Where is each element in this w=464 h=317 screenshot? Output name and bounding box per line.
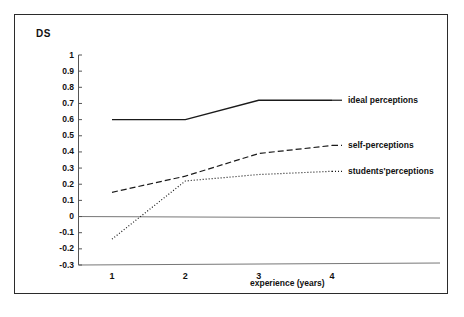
legend-label-1: self-perceptions [348,140,414,150]
y-tick-label: 0.1 [40,196,74,204]
x-axis-line [79,263,441,265]
x-axis-label: experience (years) [250,278,325,288]
y-tick-label: -0.1 [40,228,74,236]
series-line-1 [112,145,332,192]
series-group [112,100,332,239]
y-tick-label: -0.3 [40,261,74,269]
series-line-0 [112,100,332,119]
y-tick-label: 0.9 [40,67,74,75]
zero-reference-line [79,217,441,219]
y-tick-label: 0 [40,212,74,220]
legend-sample-lines [332,100,342,171]
y-tick-label: 0.4 [40,147,74,155]
y-tick-label: 0.3 [40,164,74,172]
y-tick-label: 0.7 [40,99,74,107]
legend-label-0: ideal perceptions [348,95,418,105]
series-line-2 [112,171,332,239]
y-tick-label: 0.5 [40,131,74,139]
y-tick-label: 0.8 [40,83,74,91]
legend-label-2: students'perceptions [348,166,434,176]
y-tick-label: 1 [40,51,74,59]
y-tick-label: -0.2 [40,244,74,252]
y-tick-label: 0.6 [40,115,74,123]
x-tick-label: 2 [173,271,197,281]
chart-plot-area: 10.90.80.70.60.50.40.30.20.10-0.1-0.2-0.… [0,0,464,317]
x-tick-label: 1 [100,271,124,281]
axes-group [79,55,441,265]
y-tick-label: 0.2 [40,180,74,188]
